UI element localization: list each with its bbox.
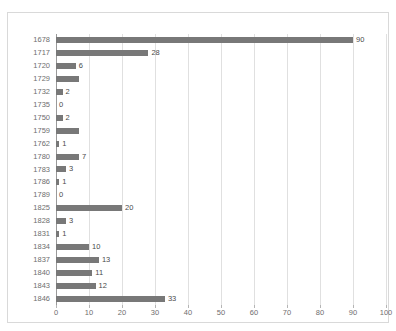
bar-value-label: 90 [356, 36, 364, 44]
bar-row[interactable]: 0 [56, 189, 386, 202]
y-tick-label-1843: 1843 [33, 282, 50, 290]
gridline-100 [386, 34, 387, 305]
bar-value-label: 13 [102, 256, 110, 264]
bar-row[interactable]: 2 [56, 86, 386, 99]
bar[interactable] [56, 128, 79, 134]
bar[interactable] [56, 89, 63, 95]
bar-value-label: 0 [59, 191, 63, 199]
x-tick-label-20: 20 [118, 309, 126, 317]
bar-value-label: 1 [62, 230, 66, 238]
y-tick-label-1759: 1759 [33, 127, 50, 135]
bar-value-label: 10 [92, 243, 100, 251]
y-tick-label-1786: 1786 [33, 178, 50, 186]
x-tick-label-100: 100 [380, 309, 393, 317]
y-tick-label-1735: 1735 [33, 101, 50, 109]
bar-value-label: 3 [69, 217, 73, 225]
bar-value-label: 6 [79, 62, 83, 70]
bar[interactable] [56, 283, 96, 289]
plot-area: 902862021731020311013111233 [56, 34, 386, 305]
bar[interactable] [56, 154, 79, 160]
bar-value-label: 7 [82, 153, 86, 161]
x-tick-label-10: 10 [85, 309, 93, 317]
y-tick-label-1825: 1825 [33, 204, 50, 212]
bar[interactable] [56, 37, 353, 43]
y-tick-label-1828: 1828 [33, 217, 50, 225]
bar[interactable] [56, 141, 59, 147]
y-tick-label-1750: 1750 [33, 114, 50, 122]
bar[interactable] [56, 179, 59, 185]
bar-row[interactable]: 0 [56, 99, 386, 112]
bar-row[interactable]: 6 [56, 60, 386, 73]
bar-value-label: 28 [151, 49, 159, 57]
bar-row[interactable]: 11 [56, 266, 386, 279]
bar[interactable] [56, 50, 148, 56]
bar-row[interactable]: 33 [56, 292, 386, 305]
bar-row[interactable]: 90 [56, 34, 386, 47]
bar[interactable] [56, 257, 99, 263]
y-tick-label-1834: 1834 [33, 243, 50, 251]
bar-value-label: 12 [99, 282, 107, 290]
y-tick-label-1720: 1720 [33, 62, 50, 70]
x-axis-labels: 0102030405060708090100 [56, 309, 386, 321]
bar-value-label: 20 [125, 204, 133, 212]
x-tick-label-70: 70 [283, 309, 291, 317]
bar-row[interactable]: 1 [56, 137, 386, 150]
bar-row[interactable] [56, 124, 386, 137]
bar-row[interactable]: 3 [56, 163, 386, 176]
bar-chart: 1678171717201729173217351750175917621780… [0, 0, 396, 331]
bar-value-label: 3 [69, 165, 73, 173]
y-tick-label-1780: 1780 [33, 153, 50, 161]
bar[interactable] [56, 270, 92, 276]
chart-title [0, 0, 396, 11]
bar-row[interactable]: 1 [56, 228, 386, 241]
bar-row[interactable]: 28 [56, 47, 386, 60]
x-tick-label-0: 0 [54, 309, 58, 317]
bar[interactable] [56, 63, 76, 69]
bar-row[interactable]: 12 [56, 279, 386, 292]
bar[interactable] [56, 205, 122, 211]
bar-row[interactable]: 2 [56, 111, 386, 124]
bar[interactable] [56, 115, 63, 121]
x-tick-label-40: 40 [184, 309, 192, 317]
y-tick-label-1678: 1678 [33, 36, 50, 44]
bar-row[interactable]: 7 [56, 150, 386, 163]
bar[interactable] [56, 244, 89, 250]
y-tick-label-1783: 1783 [33, 166, 50, 174]
y-axis-labels: 1678171717201729173217351750175917621780… [8, 34, 53, 305]
x-tick-label-60: 60 [250, 309, 258, 317]
bar[interactable] [56, 218, 66, 224]
x-tick-label-50: 50 [217, 309, 225, 317]
x-tick-label-80: 80 [316, 309, 324, 317]
bar-row[interactable]: 10 [56, 240, 386, 253]
bar-value-label: 1 [62, 140, 66, 148]
bar-value-label: 0 [59, 101, 63, 109]
x-tick-label-90: 90 [349, 309, 357, 317]
y-tick-label-1729: 1729 [33, 75, 50, 83]
bar[interactable] [56, 296, 165, 302]
bar-row[interactable]: 1 [56, 176, 386, 189]
bar[interactable] [56, 231, 59, 237]
bar-row[interactable] [56, 73, 386, 86]
y-tick-label-1840: 1840 [33, 269, 50, 277]
bar-row[interactable]: 3 [56, 215, 386, 228]
y-tick-label-1831: 1831 [33, 230, 50, 238]
bar-row[interactable]: 20 [56, 202, 386, 215]
bar-row[interactable]: 13 [56, 253, 386, 266]
y-tick-label-1789: 1789 [33, 191, 50, 199]
plot-frame: 1678171717201729173217351750175917621780… [7, 12, 389, 323]
bar-value-label: 11 [95, 269, 103, 277]
bar-value-label: 1 [62, 178, 66, 186]
y-tick-label-1732: 1732 [33, 88, 50, 96]
y-tick-label-1837: 1837 [33, 256, 50, 264]
bar[interactable] [56, 76, 79, 82]
bar[interactable] [56, 166, 66, 172]
bar-value-label: 33 [168, 295, 176, 303]
bars-layer: 902862021731020311013111233 [56, 34, 386, 305]
bar-value-label: 2 [66, 114, 70, 122]
y-tick-label-1762: 1762 [33, 140, 50, 148]
x-tick-label-30: 30 [151, 309, 159, 317]
y-tick-label-1846: 1846 [33, 295, 50, 303]
bar-value-label: 2 [66, 88, 70, 96]
y-tick-label-1717: 1717 [33, 49, 50, 57]
